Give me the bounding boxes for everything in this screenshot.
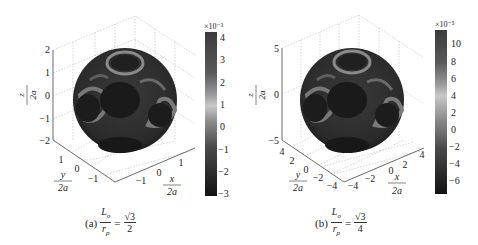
svg-text:−2: −2: [218, 166, 229, 177]
svg-text:2: 2: [451, 107, 456, 118]
svg-text:×10⁻³: ×10⁻³: [204, 22, 224, 31]
sphere-surface-b: [300, 48, 404, 153]
svg-text:0: 0: [45, 90, 50, 101]
panel-label-a: (a): [85, 217, 97, 229]
svg-text:−1: −1: [136, 175, 147, 186]
z-label-b: z 2a: [245, 85, 267, 105]
svg-text:1: 1: [45, 67, 50, 78]
svg-text:−2: −2: [313, 172, 324, 183]
svg-text:−3: −3: [218, 188, 229, 199]
svg-text:4: 4: [451, 90, 456, 101]
svg-text:0: 0: [157, 167, 162, 178]
svg-text:6: 6: [451, 73, 456, 84]
svg-text:0: 0: [451, 124, 456, 135]
svg-text:2: 2: [290, 155, 295, 166]
svg-text:2a: 2a: [293, 182, 303, 193]
svg-text:0: 0: [274, 89, 279, 100]
svg-text:−1: −1: [88, 173, 99, 184]
svg-text:−4: −4: [449, 158, 460, 169]
svg-text:0: 0: [220, 121, 225, 132]
y-ticks-b: 4 2 0 −2 −4: [280, 146, 338, 191]
svg-text:2a: 2a: [257, 90, 267, 100]
svg-text:0: 0: [304, 164, 309, 175]
svg-text:2a: 2a: [392, 185, 402, 196]
svg-text:2a: 2a: [58, 182, 68, 193]
svg-text:y: y: [295, 169, 301, 180]
svg-text:−4: −4: [327, 180, 338, 191]
x-ticks-a: −1 0 1: [136, 157, 184, 186]
colorbar-a: ×10⁻³ 4 3 2 1 0 −1 −2 −3: [204, 22, 229, 199]
svg-text:−2: −2: [365, 173, 376, 184]
svg-text:−5: −5: [268, 135, 279, 146]
svg-text:y: y: [60, 169, 66, 180]
svg-text:−2: −2: [449, 141, 460, 152]
z-ticks-a: 2 1 0 −1 −2: [39, 44, 50, 146]
svg-text:10: 10: [451, 38, 461, 49]
svg-text:2: 2: [403, 159, 408, 170]
equals-sign: =: [114, 217, 120, 229]
svg-text:4: 4: [280, 146, 285, 157]
caption-b: (b) Lo rp = √3 4: [315, 206, 367, 239]
svg-text:x: x: [169, 173, 175, 184]
svg-text:z: z: [245, 93, 255, 98]
svg-text:2a: 2a: [167, 186, 177, 197]
z-label-a: z 2a: [16, 85, 38, 105]
svg-text:z: z: [16, 93, 26, 98]
caption-rhs-a: √3 2: [124, 211, 137, 234]
x-label-a: x 2a: [163, 173, 181, 197]
caption-rhs-b: √3 4: [354, 211, 367, 234]
svg-text:4: 4: [220, 32, 225, 43]
svg-text:x: x: [394, 171, 400, 182]
svg-text:2: 2: [220, 77, 225, 88]
svg-text:2a: 2a: [28, 90, 38, 100]
svg-text:4: 4: [420, 149, 425, 160]
svg-text:1: 1: [220, 99, 225, 110]
svg-text:0: 0: [75, 163, 80, 174]
caption-lhs-b: Lo rp: [331, 206, 342, 239]
svg-text:1: 1: [59, 154, 64, 165]
svg-text:−1: −1: [39, 113, 50, 124]
equals-sign: =: [345, 217, 351, 229]
svg-text:×10⁻⁵: ×10⁻⁵: [435, 20, 455, 29]
caption-a: (a) Lo rp = √3 2: [85, 206, 136, 239]
svg-text:2: 2: [45, 44, 50, 55]
svg-text:1: 1: [179, 157, 184, 168]
panel-label-b: (b): [315, 217, 328, 229]
svg-text:−6: −6: [449, 175, 460, 186]
panel-b: 5 0 −5 z 2a 4 2 0 −2 −4 y 2a −4 −2 0 2 4: [239, 0, 478, 245]
svg-text:−4: −4: [348, 180, 359, 191]
caption-lhs-a: Lo rp: [100, 206, 111, 239]
y-label-a: y 2a: [54, 169, 72, 193]
z-ticks-b: 5 0 −5: [268, 43, 279, 146]
svg-text:−1: −1: [218, 144, 229, 155]
sphere-surface-a: [73, 48, 177, 153]
x-ticks-b: −4 −2 0 2 4: [348, 149, 425, 191]
colorbar-b: ×10⁻⁵ 10 8 6 4 2 0 −2 −4 −6: [435, 20, 461, 194]
svg-text:8: 8: [451, 56, 456, 67]
svg-text:3: 3: [220, 54, 225, 65]
panel-a: 2 1 0 −1 −2 z 2a 1 0 −1 y 2a −1 0 1: [0, 0, 239, 245]
svg-text:0: 0: [389, 165, 394, 176]
svg-text:−2: −2: [39, 135, 50, 146]
svg-text:5: 5: [274, 43, 279, 54]
